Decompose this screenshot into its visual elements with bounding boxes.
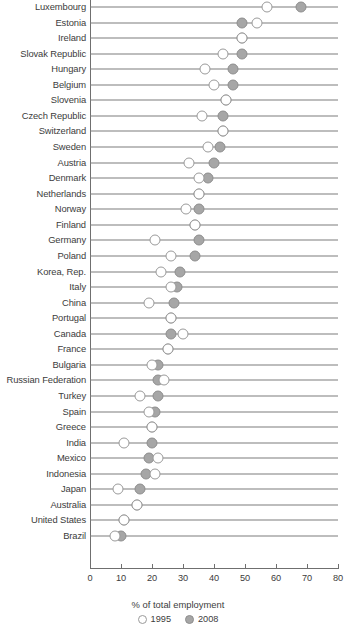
- row-connector-line: [90, 536, 338, 537]
- data-point-1995[interactable]: [112, 484, 123, 495]
- data-point-1995[interactable]: [165, 313, 176, 324]
- data-row: Poland: [0, 248, 356, 264]
- data-point-1995[interactable]: [261, 2, 272, 13]
- data-row: Russian Federation: [0, 373, 356, 389]
- data-row: Mexico: [0, 450, 356, 466]
- data-row: Czech Republic: [0, 108, 356, 124]
- data-point-1995[interactable]: [147, 422, 158, 433]
- data-point-1995[interactable]: [218, 126, 229, 137]
- data-row: Austria: [0, 155, 356, 171]
- data-point-1995[interactable]: [131, 499, 142, 510]
- data-row: Denmark: [0, 170, 356, 186]
- category-label: Hungary: [51, 64, 86, 74]
- data-point-1995[interactable]: [184, 157, 195, 168]
- data-point-1995[interactable]: [178, 328, 189, 339]
- data-point-2008[interactable]: [174, 266, 185, 277]
- row-connector-line: [90, 333, 338, 334]
- data-point-2008[interactable]: [153, 390, 164, 401]
- row-connector-line: [90, 100, 338, 101]
- data-point-1995[interactable]: [236, 33, 247, 44]
- data-point-2008[interactable]: [147, 437, 158, 448]
- legend-label-2008: 2008: [198, 614, 218, 624]
- data-point-2008[interactable]: [227, 64, 238, 75]
- data-row: Finland: [0, 217, 356, 233]
- data-point-1995[interactable]: [109, 531, 120, 542]
- category-label: Switzerland: [39, 126, 86, 136]
- row-connector-line: [90, 349, 338, 350]
- legend-label-1995: 1995: [151, 614, 171, 624]
- data-point-1995[interactable]: [147, 359, 158, 370]
- data-row: United States: [0, 513, 356, 529]
- row-connector-line: [90, 38, 338, 39]
- data-point-2008[interactable]: [209, 157, 220, 168]
- data-point-1995[interactable]: [153, 453, 164, 464]
- row-connector-line: [90, 473, 338, 474]
- data-row: Canada: [0, 326, 356, 342]
- category-label: Brazil: [63, 531, 86, 541]
- legend-item-1995: 1995: [138, 614, 171, 624]
- data-point-1995[interactable]: [190, 219, 201, 230]
- category-label: Luxembourg: [35, 2, 86, 12]
- x-axis-tick: [121, 564, 122, 568]
- data-row: Australia: [0, 497, 356, 513]
- row-connector-line: [90, 131, 338, 132]
- data-point-2008[interactable]: [168, 297, 179, 308]
- data-point-1995[interactable]: [193, 173, 204, 184]
- data-point-1995[interactable]: [199, 64, 210, 75]
- data-point-1995[interactable]: [162, 344, 173, 355]
- row-connector-line: [90, 193, 338, 194]
- category-label: United States: [31, 515, 86, 525]
- row-connector-line: [90, 318, 338, 319]
- data-row: Belgium: [0, 77, 356, 93]
- data-point-1995[interactable]: [165, 250, 176, 261]
- row-connector-line: [90, 69, 338, 70]
- data-point-1995[interactable]: [156, 266, 167, 277]
- data-point-2008[interactable]: [215, 142, 226, 153]
- data-point-1995[interactable]: [165, 282, 176, 293]
- data-point-1995[interactable]: [181, 204, 192, 215]
- category-label: Indonesia: [46, 469, 86, 479]
- data-point-1995[interactable]: [218, 48, 229, 59]
- data-point-2008[interactable]: [295, 2, 306, 13]
- dot-plot-chart: LuxembourgEstoniaIrelandSlovak RepublicH…: [0, 0, 356, 631]
- x-axis-tick: [214, 564, 215, 568]
- data-point-1995[interactable]: [119, 515, 130, 526]
- data-point-2008[interactable]: [218, 110, 229, 121]
- x-axis-tick: [307, 564, 308, 568]
- row-connector-line: [90, 255, 338, 256]
- data-point-1995[interactable]: [143, 406, 154, 417]
- data-point-2008[interactable]: [134, 484, 145, 495]
- data-point-1995[interactable]: [252, 17, 263, 28]
- data-point-1995[interactable]: [196, 110, 207, 121]
- data-point-1995[interactable]: [202, 142, 213, 153]
- data-point-2008[interactable]: [193, 204, 204, 215]
- category-label: Poland: [57, 251, 86, 261]
- data-point-1995[interactable]: [193, 188, 204, 199]
- data-point-1995[interactable]: [221, 95, 232, 106]
- data-point-2008[interactable]: [190, 250, 201, 261]
- category-label: Slovenia: [51, 95, 86, 105]
- category-label: China: [62, 298, 86, 308]
- data-point-1995[interactable]: [209, 79, 220, 90]
- data-point-1995[interactable]: [143, 297, 154, 308]
- data-point-1995[interactable]: [150, 235, 161, 246]
- open-circle-icon: [138, 615, 147, 624]
- category-label: Austria: [58, 158, 86, 168]
- data-point-2008[interactable]: [227, 79, 238, 90]
- row-connector-line: [90, 302, 338, 303]
- filled-circle-icon: [185, 615, 194, 624]
- x-axis-line: [90, 568, 339, 569]
- data-row: Hungary: [0, 61, 356, 77]
- data-point-1995[interactable]: [150, 468, 161, 479]
- data-point-2008[interactable]: [236, 17, 247, 28]
- data-point-1995[interactable]: [134, 390, 145, 401]
- data-point-2008[interactable]: [193, 235, 204, 246]
- data-point-2008[interactable]: [236, 48, 247, 59]
- data-point-1995[interactable]: [119, 437, 130, 448]
- data-row: Estonia: [0, 15, 356, 31]
- row-connector-line: [90, 22, 338, 23]
- data-row: India: [0, 435, 356, 451]
- data-point-2008[interactable]: [165, 328, 176, 339]
- category-label: Germany: [48, 235, 86, 245]
- data-point-1995[interactable]: [159, 375, 170, 386]
